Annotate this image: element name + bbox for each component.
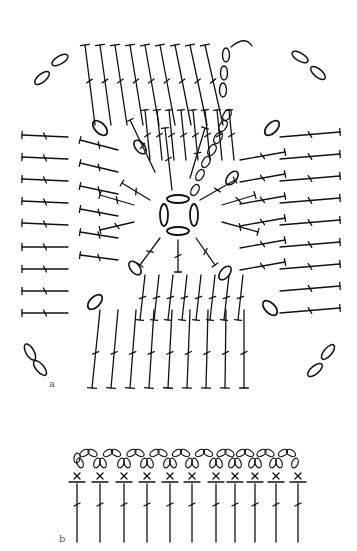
edging-diagram bbox=[69, 448, 306, 542]
granny-square-diagram bbox=[22, 41, 340, 389]
label-b: b bbox=[59, 533, 65, 544]
label-a: a bbox=[49, 378, 55, 389]
crochet-chart bbox=[0, 0, 357, 551]
